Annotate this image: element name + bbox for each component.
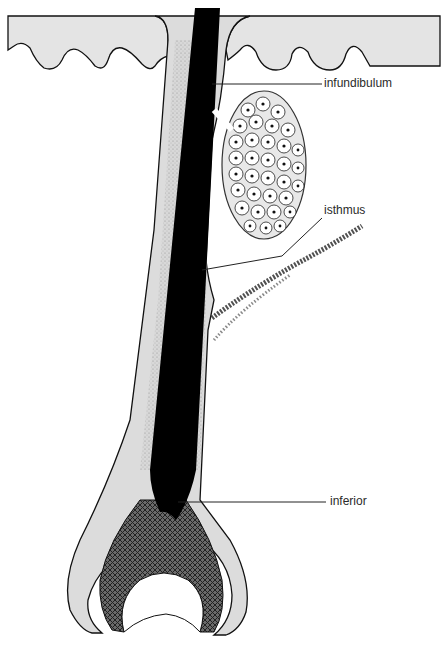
hair-follicle-diagram <box>0 0 448 664</box>
epidermis-left <box>8 16 168 69</box>
label-isthmus: isthmus <box>324 203 365 217</box>
label-inferior: inferior <box>330 494 367 508</box>
epidermis-right <box>226 16 440 70</box>
arrector-pili-muscle <box>212 226 362 318</box>
label-infundibulum: infundibulum <box>324 76 392 90</box>
